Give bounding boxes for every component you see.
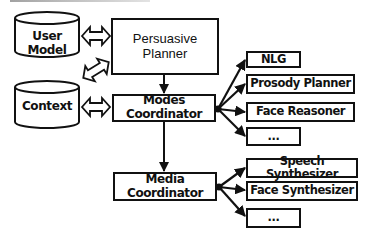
prosody-planner-box: Prosody Planner <box>246 74 355 94</box>
nlg-label: NLG <box>261 53 286 66</box>
speech-synthesizer-box: Speech Synthesizer <box>246 158 358 178</box>
more-media-label: ... <box>268 211 280 224</box>
modes-coordinator-label: Modes Coordinator <box>114 94 214 122</box>
face-reasoner-box: Face Reasoner <box>246 102 355 122</box>
planner-label-line1: Persuasive <box>133 32 197 47</box>
more-modes-label: ... <box>268 130 280 143</box>
bidirectional-arrow-icon <box>82 98 110 116</box>
face-reasoner-label: Face Reasoner <box>256 105 345 118</box>
more-media-box: ... <box>246 208 301 228</box>
user-model-label: User Model <box>15 29 79 57</box>
more-modes-box: ... <box>246 127 301 146</box>
media-coordinator-box: Media Coordinator <box>113 172 217 201</box>
bidirectional-arrow-icon <box>82 27 110 45</box>
context-label: Context <box>15 99 79 113</box>
modes-coordinator-box: Modes Coordinator <box>112 94 216 122</box>
planner-label-line2: Planner <box>133 47 197 62</box>
face-synthesizer-label: Face Synthesizer <box>250 184 354 197</box>
architecture-diagram: User Model Context Persuasive Planner Mo… <box>0 0 369 242</box>
media-fanout-arrows <box>217 168 246 216</box>
speech-synthesizer-label: Speech Synthesizer <box>248 155 356 181</box>
face-synthesizer-box: Face Synthesizer <box>246 181 358 201</box>
modes-fanout-arrows <box>216 60 246 136</box>
prosody-planner-label: Prosody Planner <box>250 77 350 90</box>
nlg-box: NLG <box>246 51 301 68</box>
bidirectional-arrow-icon <box>79 54 114 85</box>
persuasive-planner-box: Persuasive Planner <box>111 18 219 75</box>
media-coordinator-label: Media Coordinator <box>115 173 215 201</box>
